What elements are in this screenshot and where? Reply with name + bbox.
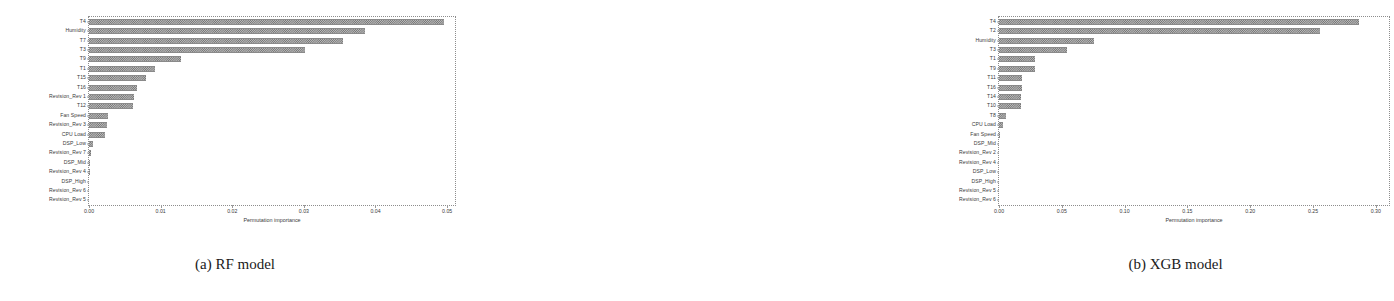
y-axis-label: T16 <box>77 85 86 90</box>
y-axis-label: T3 <box>80 47 86 52</box>
y-tick-mark <box>87 200 89 201</box>
bar <box>999 47 1067 53</box>
y-axis-label: Fan Speed <box>60 113 86 118</box>
plot-area-xgb: Permutation importance T4T2HumidityT3T1T… <box>998 16 1390 206</box>
y-axis-label: DSP_High <box>971 179 996 184</box>
bar <box>999 19 1359 25</box>
y-axis-label: DSP_High <box>61 179 86 184</box>
y-tick-mark <box>997 162 999 163</box>
caption-xgb: (b) XGB model <box>940 256 1394 273</box>
y-axis-label: Revision_Rev 4 <box>959 160 996 165</box>
y-axis-label: DSP_Low <box>973 170 996 175</box>
y-axis-label: DSP_Low <box>63 141 86 146</box>
bar <box>89 94 134 100</box>
y-axis-label: T4 <box>990 19 996 24</box>
y-tick-mark <box>997 200 999 201</box>
y-axis-label: CPU Load <box>62 132 86 137</box>
x-axis-tick-label: 0.03 <box>299 209 309 214</box>
bar <box>89 85 137 91</box>
x-axis-tick-label: 0.10 <box>1120 209 1130 214</box>
x-axis-title-xgb: Permutation importance <box>1165 218 1222 223</box>
y-axis-label: T8 <box>990 113 996 118</box>
y-tick-mark <box>87 190 89 191</box>
y-axis-label: Fan Speed <box>970 132 996 137</box>
y-tick-mark <box>997 172 999 173</box>
bar <box>999 113 1006 119</box>
y-tick-mark <box>997 190 999 191</box>
y-axis-label: Revision_Rev 6 <box>49 188 86 193</box>
y-axis-label: T2 <box>990 29 996 34</box>
x-axis-tick-label: 0.01 <box>156 209 166 214</box>
y-tick-mark <box>997 143 999 144</box>
bar <box>999 103 1021 109</box>
bar <box>999 28 1320 34</box>
bar <box>999 38 1094 44</box>
x-axis-tick-label: 0.05 <box>442 209 452 214</box>
bar <box>999 94 1021 100</box>
bar <box>89 113 108 119</box>
y-axis-label: Humidity <box>975 38 996 43</box>
caption-rf: (a) RF model <box>0 256 470 273</box>
y-axis-label: Revision_Rev 5 <box>959 188 996 193</box>
y-tick-mark <box>997 153 999 154</box>
x-axis-tick-label: 0.05 <box>1057 209 1067 214</box>
x-axis-tick-label: 0.04 <box>370 209 380 214</box>
y-axis-label: T3 <box>990 47 996 52</box>
x-axis-tick-label: 0.00 <box>84 209 94 214</box>
y-axis-label: T4 <box>80 19 86 24</box>
y-axis-label: T1 <box>80 66 86 71</box>
y-tick-mark <box>87 181 89 182</box>
y-axis-label: Revision_Rev 7 <box>49 151 86 156</box>
x-axis-title-rf: Permutation importance <box>243 218 300 223</box>
bar <box>89 66 155 72</box>
y-axis-label: DSP_Mid <box>974 141 996 146</box>
x-axis-tick-label: 0.30 <box>1371 209 1381 214</box>
bar <box>89 160 90 166</box>
x-axis-tick-label: 0.25 <box>1308 209 1318 214</box>
y-axis-label: T9 <box>80 57 86 62</box>
bar <box>999 75 1022 81</box>
bar <box>89 103 133 109</box>
bar <box>89 169 90 175</box>
y-axis-label: T14 <box>987 94 996 99</box>
y-axis-label: Revision_Rev 6 <box>959 198 996 203</box>
x-axis-tick-label: 0.00 <box>994 209 1004 214</box>
y-axis-label: Revision_Rev 4 <box>49 170 86 175</box>
bar <box>999 85 1022 91</box>
y-axis-label: Humidity <box>65 29 86 34</box>
y-axis-label: T7 <box>80 38 86 43</box>
y-axis-label: Revision_Rev 2 <box>959 151 996 156</box>
x-axis-tick-label: 0.20 <box>1245 209 1255 214</box>
plot-area-rf: Permutation importance T4HumidityT7T3T9T… <box>88 16 456 206</box>
bar <box>999 122 1003 128</box>
bar <box>89 141 93 147</box>
y-axis-label: T9 <box>990 66 996 71</box>
y-axis-label: T15 <box>77 76 86 81</box>
bar <box>89 56 181 62</box>
bar <box>89 38 343 44</box>
bar <box>89 28 365 34</box>
bar <box>999 132 1000 138</box>
y-axis-label: Revision_Rev 1 <box>49 94 86 99</box>
bar <box>89 132 105 138</box>
x-axis-tick-label: 0.02 <box>227 209 237 214</box>
bar <box>89 19 444 25</box>
y-axis-label: T10 <box>987 104 996 109</box>
y-axis-label: DSP_Mid <box>64 160 86 165</box>
y-axis-label: Revision_Rev 3 <box>49 123 86 128</box>
y-axis-label: T16 <box>987 85 996 90</box>
y-axis-label: T11 <box>987 76 996 81</box>
x-axis-tick-label: 0.15 <box>1182 209 1192 214</box>
bar <box>89 75 146 81</box>
bar <box>89 122 107 128</box>
bar <box>999 56 1035 62</box>
bar <box>89 47 305 53</box>
bar <box>999 66 1035 72</box>
y-axis-label: CPU Load <box>972 123 996 128</box>
y-axis-label: Revision_Rev 5 <box>49 198 86 203</box>
y-axis-label: T1 <box>990 57 996 62</box>
panel-xgb-model: Permutation importance T4T2HumidityT3T1T… <box>470 0 941 245</box>
panel-rf-model: Permutation importance T4HumidityT7T3T9T… <box>0 0 470 245</box>
y-tick-mark <box>997 181 999 182</box>
